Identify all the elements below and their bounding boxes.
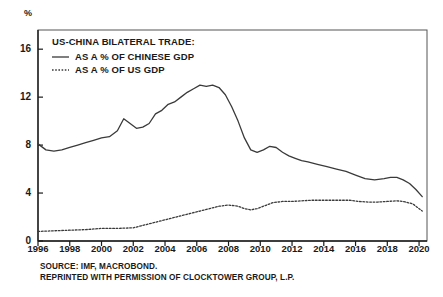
- x-tick-2012: 2012: [275, 243, 309, 254]
- chart-footer: SOURCE: IMF, MACROBOND. REPRINTED WITH P…: [40, 261, 294, 283]
- chart-legend: US-CHINA BILATERAL TRADE: AS A % OF CHIN…: [52, 36, 195, 77]
- x-tick-2010: 2010: [243, 243, 277, 254]
- x-tick-1996: 1996: [21, 243, 55, 254]
- x-tick-2006: 2006: [180, 243, 214, 254]
- x-tick-2020: 2020: [402, 243, 436, 254]
- y-tick-12: 12: [11, 91, 31, 102]
- series-line-us-gdp: [38, 200, 422, 231]
- footer-permission-line: REPRINTED WITH PERMISSION OF CLOCKTOWER …: [40, 272, 294, 283]
- legend-label-us-gdp: AS A % OF US GDP: [75, 64, 165, 75]
- x-tick-2000: 2000: [85, 243, 119, 254]
- x-tick-2016: 2016: [339, 243, 373, 254]
- legend-item-us-gdp: AS A % OF US GDP: [52, 64, 195, 75]
- legend-label-chinese-gdp: AS A % OF CHINESE GDP: [75, 51, 194, 62]
- axis-ticks: [38, 49, 419, 246]
- legend-title: US-CHINA BILATERAL TRADE:: [52, 36, 195, 47]
- y-tick-16: 16: [11, 43, 31, 54]
- legend-swatch-dotted-icon: [52, 65, 69, 74]
- data-series-group: [38, 85, 422, 231]
- x-tick-2002: 2002: [116, 243, 150, 254]
- footer-source-line: SOURCE: IMF, MACROBOND.: [40, 261, 294, 272]
- x-tick-2004: 2004: [148, 243, 182, 254]
- y-tick-8: 8: [11, 139, 31, 150]
- x-tick-2014: 2014: [307, 243, 341, 254]
- series-line-chinese-gdp: [38, 85, 422, 196]
- x-tick-1998: 1998: [53, 243, 87, 254]
- legend-swatch-solid-icon: [52, 52, 69, 61]
- chart-container: % 0481216 199619982000200220042006200820…: [0, 0, 443, 297]
- legend-item-chinese-gdp: AS A % OF CHINESE GDP: [52, 51, 195, 62]
- x-tick-2018: 2018: [370, 243, 404, 254]
- y-tick-4: 4: [11, 187, 31, 198]
- x-tick-2008: 2008: [212, 243, 246, 254]
